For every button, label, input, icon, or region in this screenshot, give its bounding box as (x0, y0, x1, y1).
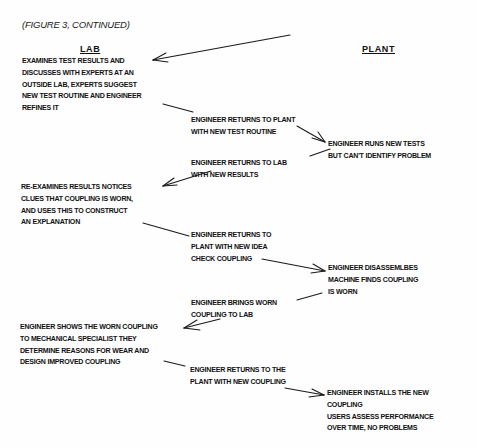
flow-arrows (0, 0, 477, 448)
connector-lab1-transit1 (163, 104, 193, 112)
connector-plant1-transit2 (310, 149, 330, 156)
arrow-to-plant-step-3 (285, 388, 324, 397)
document-page: (FIGURE 3, CONTINUED) LAB PLANT EXAMINES… (0, 0, 477, 448)
connector-lab3-transit5 (164, 361, 185, 366)
arrow-to-lab-step-2 (163, 171, 211, 186)
connector-lab2-transit3 (143, 223, 189, 236)
arrow-to-lab-step-1 (153, 35, 290, 62)
arrow-to-lab-step-3 (184, 319, 220, 330)
arrow-to-plant-step-1 (297, 126, 325, 142)
arrow-to-plant-step-2 (262, 259, 325, 273)
connector-plant2-transit4 (297, 293, 322, 300)
